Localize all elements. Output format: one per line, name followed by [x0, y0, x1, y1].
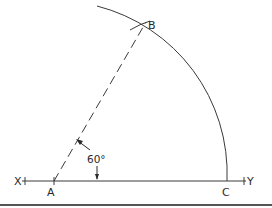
compass-arc — [97, 6, 227, 181]
intersection-arc-b — [130, 21, 150, 30]
label-y: Y — [246, 175, 254, 188]
label-b: B — [148, 19, 156, 32]
label-angle: 60° — [87, 153, 106, 165]
label-a: A — [47, 186, 55, 199]
label-c: C — [222, 186, 230, 199]
diagram-canvas: X Y A B C 60° — [0, 0, 272, 208]
label-x: X — [14, 175, 22, 188]
arrowhead-lower — [95, 174, 99, 180]
bottom-rule — [0, 204, 272, 206]
